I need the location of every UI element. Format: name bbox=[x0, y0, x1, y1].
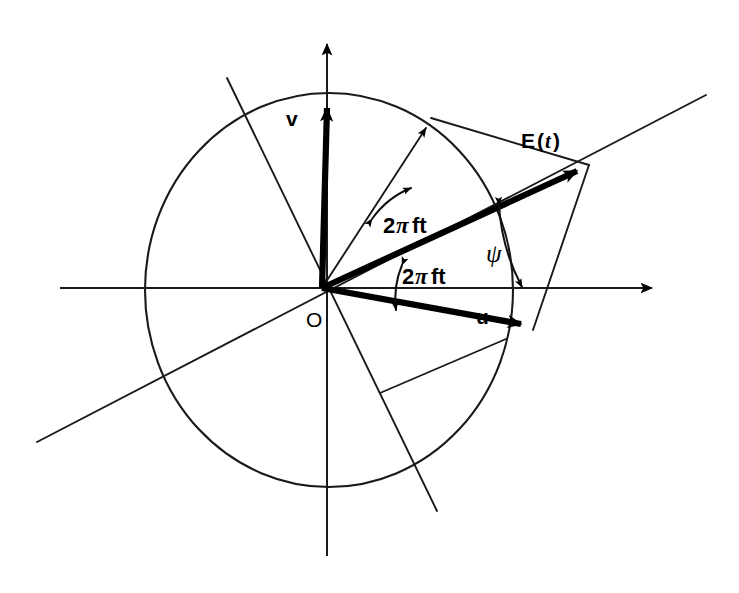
field-vector-label: E ( t ) bbox=[521, 129, 560, 153]
lower-angle-label-pi: π bbox=[415, 264, 429, 289]
lower-angle-label-two: 2 bbox=[402, 264, 414, 289]
origin-label: O bbox=[306, 308, 322, 331]
diagram-canvas: v u O E ( t ) 2 π ft 2 π ft ψ bbox=[0, 0, 739, 593]
upper-angle-label-two: 2 bbox=[383, 213, 395, 238]
lower-angle-label: 2 π ft bbox=[402, 264, 446, 289]
lower-angle-label-ft: ft bbox=[431, 264, 446, 289]
field-vector-label-paren-open: ( bbox=[537, 129, 544, 152]
upper-angle-label-ft: ft bbox=[412, 213, 427, 238]
upper-angle-label: 2 π ft bbox=[383, 213, 427, 238]
field-vector-label-E: E bbox=[521, 129, 535, 152]
upper-angle-label-pi: π bbox=[396, 213, 410, 238]
field-vector-label-paren-close: ) bbox=[553, 129, 560, 152]
polarization-ellipse-diagram: v u O E ( t ) 2 π ft 2 π ft ψ bbox=[0, 0, 739, 593]
u-axis-label: u bbox=[476, 305, 489, 328]
psi-angle-label: ψ bbox=[486, 240, 502, 267]
v-axis-label: v bbox=[286, 107, 298, 130]
